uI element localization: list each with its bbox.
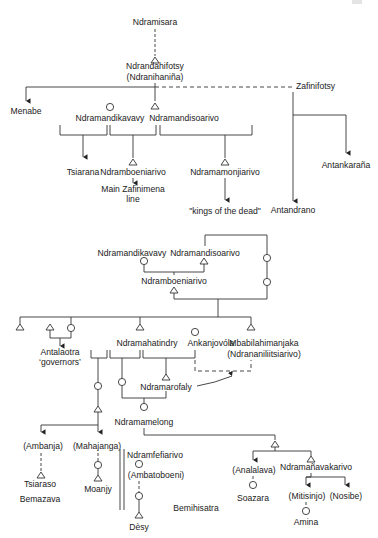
corner-mark bbox=[352, 0, 362, 4]
label-ndramandisoarivo: Ndramandisoarivo bbox=[149, 113, 219, 123]
male-symbol bbox=[200, 258, 208, 264]
label-main-zafinimena: Main Zafinimena bbox=[101, 184, 165, 194]
male-symbol bbox=[135, 512, 143, 518]
female-symbol bbox=[67, 324, 74, 331]
label-antandrano: Antandrano bbox=[271, 205, 316, 215]
label-ndramamelong: Ndramamelong bbox=[115, 417, 174, 427]
label-ndramboeniarivo: Ndramboeniarivo bbox=[100, 167, 166, 177]
female-symbol bbox=[94, 461, 101, 468]
label-zafinifotsy: Zafinifotsy bbox=[296, 81, 336, 91]
female-symbol bbox=[106, 103, 113, 110]
female-symbol bbox=[140, 257, 147, 264]
label-antalaotra: Antalaotra bbox=[40, 347, 79, 357]
label-governors: ‘governors’ bbox=[39, 357, 81, 367]
label-ankanjovola: Ankanjovóla bbox=[188, 338, 235, 348]
label-ndramfefiarivo: Ndramfefiarivo bbox=[127, 450, 183, 460]
female-symbol bbox=[94, 382, 101, 389]
label-ndramandisoarivo-2: Ndramandisoarivo bbox=[170, 248, 240, 258]
label-ndramamonjiarivo: Ndramamonjiarivo bbox=[190, 167, 260, 177]
female-symbol bbox=[135, 460, 142, 467]
male-symbol bbox=[247, 324, 255, 330]
label-ndrandahifotsy: Ndrandahifotsy bbox=[126, 61, 185, 71]
male-symbol bbox=[129, 159, 137, 165]
label-tsiaraso: Tsiaraso bbox=[24, 479, 56, 489]
label-ndramandikavavy-2: Ndramandikavavy bbox=[98, 248, 167, 258]
label-ndramarofaly: Ndramarofaly bbox=[140, 382, 192, 392]
genealogy-diagram: Ndramisara Ndrandahifotsy (Ndranihaniña)… bbox=[0, 0, 378, 538]
female-symbol bbox=[263, 278, 270, 285]
label-moanjy: Moanjy bbox=[84, 484, 112, 494]
male-symbol bbox=[162, 374, 170, 380]
bottom-tree: Ndramandikavavy Ndramandisoarivo Ndrambo… bbox=[16, 235, 362, 532]
label-ndramboeniarivo-2: Ndramboeniarivo bbox=[141, 276, 207, 286]
female-symbol bbox=[302, 507, 309, 514]
label-ndramanavakarivo: Ndramañavakarivo bbox=[280, 462, 352, 472]
male-symbol bbox=[94, 475, 102, 481]
label-nosibe: (Nosibe) bbox=[330, 491, 363, 501]
label-soazara: Soazara bbox=[237, 493, 269, 503]
female-symbol bbox=[140, 403, 147, 410]
male-symbol bbox=[151, 103, 159, 109]
label-antankarana: Antankaraña bbox=[322, 160, 371, 170]
label-ndramandikavavy: Ndramandikavavy bbox=[76, 113, 145, 123]
label-mbabilahimanjaka: Mbabilahimanjaka bbox=[229, 338, 298, 348]
female-symbol bbox=[118, 378, 125, 385]
male-symbol bbox=[37, 472, 45, 478]
male-symbol bbox=[94, 406, 102, 412]
label-amina: Amina bbox=[294, 517, 319, 527]
top-tree: Ndramisara Ndrandahifotsy (Ndranihaniña)… bbox=[10, 17, 370, 216]
label-desy: Dèsy bbox=[129, 522, 149, 532]
male-symbol bbox=[221, 159, 229, 165]
label-mitisinjo: (Mitisinjo) bbox=[289, 491, 326, 501]
label-line: line bbox=[126, 194, 140, 204]
label-kings-of-the-dead: "kings of the dead" bbox=[189, 206, 261, 216]
label-bemazava: Bemazava bbox=[20, 494, 61, 504]
male-symbol bbox=[46, 324, 54, 330]
label-mahajanga: (Mahajanga) bbox=[73, 441, 121, 451]
label-ndrananiliitsiarivo: (Ndrananiliitsiarivo) bbox=[227, 349, 301, 359]
label-bemihisatra: Bemihisatra bbox=[173, 503, 219, 513]
label-menabe: Menabe bbox=[10, 106, 41, 116]
female-symbol bbox=[263, 254, 270, 261]
male-symbol bbox=[271, 441, 279, 447]
male-symbol bbox=[170, 287, 178, 293]
label-ambatoboeni: (Ambatoboeni) bbox=[128, 470, 185, 480]
label-ambanja: (Ambanja) bbox=[23, 441, 63, 451]
female-symbol bbox=[135, 492, 142, 499]
male-symbol bbox=[136, 324, 144, 330]
label-ndramisara: Ndramisara bbox=[133, 17, 178, 27]
male-symbol bbox=[16, 324, 24, 330]
label-ndranihanina: (Ndranihaniña) bbox=[127, 72, 184, 82]
label-analalava: (Analalava) bbox=[232, 465, 276, 475]
female-symbol bbox=[191, 328, 198, 335]
female-symbol bbox=[249, 481, 256, 488]
label-ndramahatindry: Ndramahatindry bbox=[116, 338, 178, 348]
label-tsiarana: Tsiarana bbox=[67, 167, 100, 177]
